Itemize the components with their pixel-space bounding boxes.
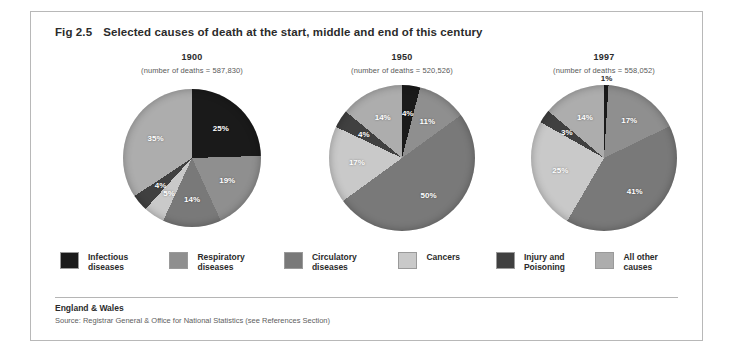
pie-slice-label: 4% <box>155 180 167 189</box>
legend-color-swatch <box>60 252 79 269</box>
legend-item-label: Infectious diseases <box>88 252 128 273</box>
legend-item-label: Injury and Poisoning <box>524 252 565 273</box>
pie-slice-label: 17% <box>349 158 365 167</box>
pie-slice-label: 17% <box>621 116 637 125</box>
legend-item-label: Respiratory diseases <box>197 252 244 273</box>
legend-color-swatch <box>398 252 417 269</box>
pie-slice-label: 11% <box>420 116 436 125</box>
legend-item[interactable]: All other causes <box>595 252 685 273</box>
panel-year-label: 1950 <box>290 52 514 62</box>
pie-slice-label: 14% <box>577 113 593 122</box>
pie-slice-label: 25% <box>213 124 229 133</box>
legend-color-swatch <box>496 252 515 269</box>
legend-color-swatch <box>169 252 188 269</box>
pie-panel-1950: 1950 (number of deaths = 520,526) 4%11%5… <box>290 52 514 231</box>
figure-title: Fig 2.5Selected causes of death at the s… <box>55 26 483 38</box>
panel-year-label: 1997 <box>492 52 716 62</box>
figure-page: Fig 2.5Selected causes of death at the s… <box>0 0 733 354</box>
pie-slice-label: 41% <box>627 187 643 196</box>
legend-item-label: All other causes <box>623 252 657 273</box>
pie-chart-1997: 1%17%41%25%3%14% <box>531 85 677 231</box>
pie-slices <box>531 85 677 231</box>
legend-item[interactable]: Infectious diseases <box>60 252 169 273</box>
pie-slice-label: 50% <box>421 190 437 199</box>
legend-item-label: Circulatory diseases <box>312 252 357 273</box>
legend-color-swatch <box>284 252 303 269</box>
pie-slice-label: 35% <box>147 134 163 143</box>
legend-item[interactable]: Respiratory diseases <box>169 252 283 273</box>
panel-deaths-label: (number of deaths = 520,526) <box>290 66 514 75</box>
pie-slice-label: 14% <box>184 195 200 204</box>
pie-slice-label: 14% <box>375 113 391 122</box>
legend-color-swatch <box>595 252 614 269</box>
panel-year-label: 1900 <box>80 52 304 62</box>
legend: Infectious diseasesRespiratory diseasesC… <box>60 252 685 273</box>
legend-item[interactable]: Cancers <box>398 252 496 273</box>
figure-title-text: Selected causes of death at the start, m… <box>103 26 482 38</box>
pie-panel-1997: 1997 (number of deaths = 558,052) 1%17%4… <box>492 52 716 231</box>
pie-slice-label: 4% <box>358 129 370 138</box>
footer-divider <box>55 297 678 298</box>
pie-slice-label: 3% <box>561 128 573 137</box>
pie-slice-label: 19% <box>219 175 235 184</box>
pie-slice-label: 25% <box>552 165 568 174</box>
legend-item[interactable]: Injury and Poisoning <box>496 252 596 273</box>
legend-item[interactable]: Circulatory diseases <box>284 252 398 273</box>
footer-source: Source: Registrar General & Office for N… <box>55 316 330 325</box>
pie-slices <box>123 89 261 227</box>
figure-number: Fig 2.5 <box>55 26 92 38</box>
legend-item-label: Cancers <box>426 252 460 263</box>
pie-slice-label: 4% <box>402 109 414 118</box>
pie-slice-label: 1% <box>601 73 613 82</box>
pie-chart-1900: 25%19%14%5%4%35% <box>123 89 261 227</box>
pie-chart-1950: 4%11%50%17%4%14% <box>329 85 475 231</box>
pie-panel-1900: 1900 (number of deaths = 587,830) 25%19%… <box>80 52 304 227</box>
footer-region: England & Wales <box>55 303 124 313</box>
panel-deaths-label: (number of deaths = 587,830) <box>80 66 304 75</box>
